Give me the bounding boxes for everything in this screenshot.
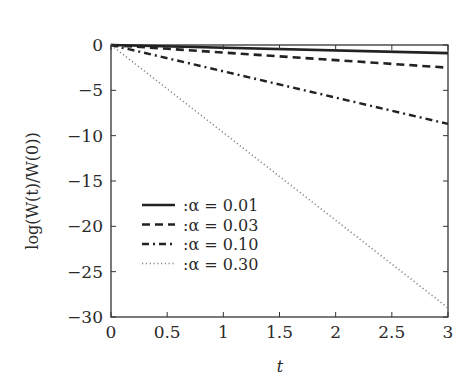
x-tick-label: 2.5 — [378, 322, 405, 342]
legend-label: :α = 0.10 — [183, 235, 258, 254]
y-tick-label: −5 — [78, 80, 103, 100]
y-tick-label: −30 — [67, 307, 103, 327]
y-axis-ticks: 0−5−10−15−20−25−30 — [67, 35, 448, 327]
plot-area — [111, 45, 448, 317]
y-tick-label: 0 — [92, 35, 103, 55]
x-tick-label: 1 — [218, 322, 229, 342]
y-tick-label: −10 — [67, 126, 103, 146]
x-tick-label: 2 — [330, 322, 341, 342]
series-layer — [111, 45, 448, 308]
series-line-dashdot — [111, 45, 448, 124]
x-axis-ticks: 00.511.522.53 — [106, 45, 454, 342]
y-tick-label: −15 — [67, 171, 103, 191]
legend-label: :α = 0.30 — [183, 255, 258, 274]
x-tick-label: 1.5 — [266, 322, 293, 342]
legend: :α = 0.01:α = 0.03:α = 0.10:α = 0.30 — [142, 196, 258, 274]
x-tick-label: 3 — [443, 322, 454, 342]
y-axis-label: log(W(t)/W(0)) — [23, 132, 42, 249]
y-tick-label: −20 — [67, 216, 103, 236]
x-tick-label: 0 — [106, 322, 117, 342]
plot-frame — [111, 45, 448, 317]
legend-label: :α = 0.01 — [183, 196, 258, 215]
legend-label: :α = 0.03 — [183, 216, 258, 235]
chart: 00.511.522.53 0−5−10−15−20−25−30 t log(W… — [0, 0, 476, 390]
x-tick-label: 0.5 — [154, 322, 181, 342]
y-tick-label: −25 — [67, 262, 103, 282]
x-axis-label: t — [277, 357, 284, 376]
